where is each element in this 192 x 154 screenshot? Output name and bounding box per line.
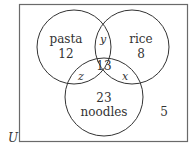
pasta-rice-region-label: y: [99, 33, 107, 46]
pasta-noodles-region-label: z: [77, 70, 84, 83]
universe-label: U: [8, 131, 19, 145]
pasta-only-value: 12: [58, 47, 73, 61]
rice-noodles-region-label: x: [122, 70, 129, 83]
all-three-region-value: 13: [96, 59, 111, 73]
pasta-label: pasta: [50, 32, 83, 46]
noodles-only-value: 23: [96, 91, 111, 105]
venn-diagram: U pasta 12 rice 8 y 13 z x 23 noodles 5: [0, 0, 192, 154]
rice-label: rice: [129, 32, 152, 46]
noodles-label: noodles: [81, 105, 128, 119]
outside-value: 5: [160, 105, 168, 119]
rice-only-value: 8: [137, 47, 145, 61]
